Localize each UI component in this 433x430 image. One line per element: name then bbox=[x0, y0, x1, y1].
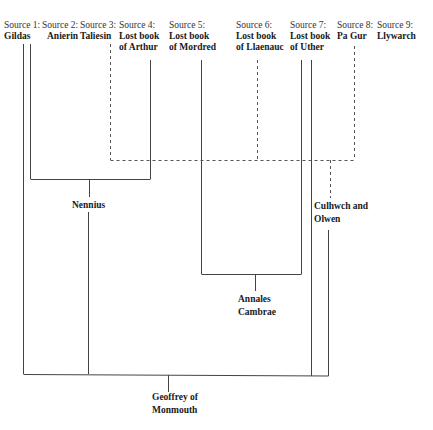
source-5-label: Source 5: Lost book of Mordred bbox=[169, 20, 216, 53]
annales-label-line-1: Annales bbox=[238, 293, 276, 306]
source-9-label: Source 9: Llywarch bbox=[377, 20, 416, 42]
culhwch-label-line-2: Olwen bbox=[314, 213, 368, 226]
source-8-label: Source 8: Pa Gur bbox=[337, 20, 373, 42]
source-1-label: Source 1: Gildas bbox=[4, 20, 40, 42]
nennius-label: Nennius bbox=[72, 200, 105, 210]
geoffrey-label-line-2: Monmouth bbox=[152, 404, 198, 417]
geoffrey-of-monmouth-node: Geoffrey of Monmouth bbox=[152, 391, 198, 417]
geoffrey-bracket bbox=[24, 375, 329, 377]
culhwch-label-line-1: Culhwch and bbox=[314, 200, 368, 213]
culhwch-and-olwen-node: Culhwch and Olwen bbox=[314, 200, 368, 226]
source-7-label: Source 7: Lost book of Uther bbox=[290, 20, 330, 53]
annales-cambrae-node: Annales Cambrae bbox=[238, 293, 276, 319]
source-4-label: Source 4: Lost book of Arthur bbox=[119, 20, 159, 53]
source-2-label: Source 2: Anierin bbox=[42, 20, 78, 42]
annales-label-line-2: Cambrae bbox=[238, 306, 276, 319]
source-3-label: Source 3: Taliesin bbox=[80, 20, 116, 42]
source-6-label: Source 6: Lost book of Llaenauc bbox=[236, 20, 284, 53]
geoffrey-label-line-1: Geoffrey of bbox=[152, 391, 198, 404]
nennius-node: Nennius bbox=[72, 199, 105, 212]
